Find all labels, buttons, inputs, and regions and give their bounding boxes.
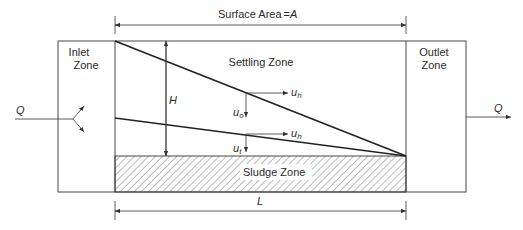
upper-uh-label: uh xyxy=(291,86,302,100)
lower-ut-label: ut xyxy=(233,142,242,156)
inflow-diffuser-up xyxy=(73,106,84,119)
settling-basin-diagram: Surface Area=A Sludge Zone Inlet Zone Se… xyxy=(0,0,523,230)
inlet-zone-label-2: Zone xyxy=(73,59,98,71)
height-label: H xyxy=(169,94,177,106)
outflow-label: Q xyxy=(494,102,503,114)
sludge-zone-label: Sludge Zone xyxy=(243,166,305,178)
lower-uh-label: uh xyxy=(291,127,302,141)
length-label: L xyxy=(257,195,263,207)
length-dimension: L xyxy=(115,195,406,220)
inflow-label: Q xyxy=(16,104,25,116)
outlet-zone-label-2: Zone xyxy=(421,59,446,71)
inflow-diffuser-down xyxy=(73,119,84,132)
surface-area-label: Surface Area=A xyxy=(218,8,297,20)
outlet-zone-label-1: Outlet xyxy=(419,46,448,58)
upper-uo-label: uo xyxy=(233,106,244,120)
inlet-zone-label-1: Inlet xyxy=(69,46,90,58)
settling-zone-label: Settling Zone xyxy=(229,56,294,68)
trajectory-lower xyxy=(115,118,406,156)
surface-area-dimension: Surface Area=A xyxy=(115,8,406,34)
